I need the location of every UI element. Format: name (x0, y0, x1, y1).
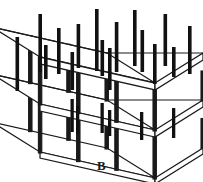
rebar-bar-13 (153, 44, 157, 84)
figure-caption: B (0, 158, 203, 173)
interior-bar-5 (140, 112, 143, 140)
rebar-bar-3 (44, 45, 48, 79)
rebar-bar-10 (115, 22, 119, 72)
interior-bar-3 (101, 103, 104, 133)
frame-isometric-drawing (0, 0, 203, 182)
rebar-bar-6 (77, 24, 81, 68)
rebar-bar-1 (16, 37, 20, 91)
rebar-bar-12 (141, 30, 145, 72)
rebar-bar-2 (38, 14, 42, 72)
column-r1 (201, 119, 203, 149)
interior-bar-4 (108, 110, 111, 136)
interior-bar-6 (172, 108, 175, 138)
rebar-bar-9 (108, 48, 112, 90)
rebar-bar-4 (57, 28, 61, 74)
interior-bar-2 (76, 106, 79, 134)
rebar-bar-15 (172, 47, 176, 77)
rebar-bar-7 (95, 9, 99, 71)
figure-container: B (0, 0, 203, 182)
rebar-bar-11 (133, 10, 137, 66)
rebar-bar-14 (164, 14, 168, 66)
column-u-r1 (201, 71, 203, 101)
interior-bar-1 (71, 99, 74, 132)
rebar-bar-5 (71, 52, 75, 90)
rebar-bar-16 (188, 26, 192, 74)
rebar-bar-8 (101, 40, 105, 76)
